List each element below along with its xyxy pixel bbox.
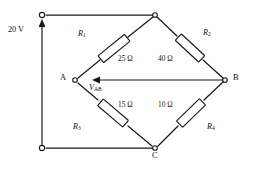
node-b-label: B: [233, 74, 239, 82]
wire-r2-to-b: [203, 60, 223, 78]
resistor-r3-label: R3: [73, 123, 81, 132]
resistor-r4-icon: [176, 99, 205, 128]
resistor-r4-label: R4: [207, 123, 215, 132]
wire-c-to-r4: [158, 126, 178, 146]
source-voltage-label: 20 V: [8, 26, 24, 34]
resistor-r2-value: 40 Ω: [158, 55, 173, 62]
resistor-r1-label: R1: [78, 30, 86, 39]
resistor-r4-value: 10 Ω: [158, 101, 173, 108]
resistor-r3-value: 15 Ω: [118, 101, 133, 108]
resistor-r1-subscript: 1: [83, 32, 86, 38]
resistor-r2-icon: [175, 34, 204, 62]
resistor-r2-label: R2: [203, 29, 211, 38]
resistor-r2-subscript: 2: [208, 31, 211, 37]
wire-r3-to-c: [128, 126, 152, 146]
resistor-r3-subscript: 3: [78, 125, 81, 131]
wire-top-to-r2: [157, 17, 177, 36]
wire-r4-to-b: [204, 82, 223, 100]
resistor-r4-subscript: 4: [212, 125, 215, 131]
wire-a-to-r1: [78, 60, 100, 78]
terminal-bottom-icon: [39, 145, 44, 150]
node-a-terminal-icon: [73, 78, 78, 83]
resistor-r1-value: 25 Ω: [118, 55, 133, 62]
node-top-terminal-icon: [153, 13, 158, 18]
node-c-terminal-icon: [153, 146, 158, 151]
source-arrowhead-icon: [39, 19, 46, 27]
terminal-top-icon: [39, 12, 44, 17]
vab-subscript: AB: [94, 86, 102, 92]
circuit-svg: [0, 0, 254, 185]
vab-label: VAB: [89, 84, 102, 93]
circuit-diagram-figure: 20 V A B C VAB R1 R2 R3 R4 25 Ω 40 Ω 15 …: [0, 0, 254, 185]
node-c-label: C: [152, 152, 158, 160]
node-b-terminal-icon: [223, 78, 228, 83]
wire-r1-to-top: [128, 17, 153, 37]
node-a-label: A: [60, 74, 66, 82]
